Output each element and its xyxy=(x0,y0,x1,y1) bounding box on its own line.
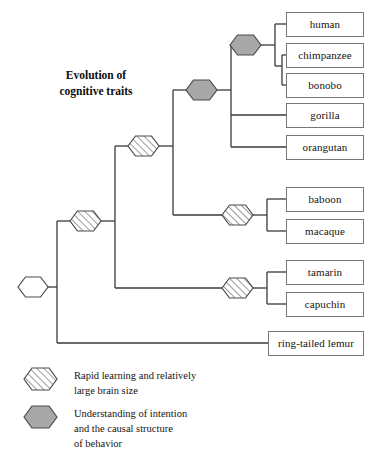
legend-item-rapid-learning: Rapid learning and relatively large brai… xyxy=(74,368,324,398)
taxon-label-human: human xyxy=(286,12,364,37)
node-root xyxy=(18,277,48,297)
taxon-label-bonobo: bonobo xyxy=(286,73,364,98)
node-catarrhine xyxy=(128,136,159,156)
legend-understanding-line-2: and the causal structure xyxy=(74,421,324,436)
node-hominine xyxy=(230,35,261,55)
title-line-2: cognitive traits xyxy=(33,84,159,100)
legend-understanding-line-1: Understanding of intention xyxy=(74,406,324,421)
node-platyrrhine xyxy=(222,278,253,298)
legend-rapid-learning-line-2: large brain size xyxy=(74,383,324,398)
page-title: Evolution of cognitive traits xyxy=(33,68,159,99)
taxon-label-baboon: baboon xyxy=(286,187,364,212)
taxon-label-tamarin: tamarin xyxy=(286,260,364,285)
legend-understanding-line-3: of behavior xyxy=(74,436,324,451)
taxon-label-capuchin: capuchin xyxy=(286,292,364,317)
taxon-label-chimpanzee: chimpanzee xyxy=(286,43,364,68)
taxon-label-orangutan: orangutan xyxy=(286,135,364,160)
node-hominoid xyxy=(186,80,217,100)
node-cercopithecoid xyxy=(222,205,253,225)
node-anthropoid xyxy=(70,211,101,231)
taxon-label-gorilla: gorilla xyxy=(286,103,364,128)
legend-gray-hexagon-icon xyxy=(24,406,57,428)
legend-item-understanding-intention: Understanding of intention and the causa… xyxy=(74,406,324,452)
title-line-1: Evolution of xyxy=(33,68,159,84)
legend-rapid-learning-line-1: Rapid learning and relatively xyxy=(74,368,324,383)
legend-hatched-hexagon-icon xyxy=(24,368,57,390)
taxon-label-macaque: macaque xyxy=(286,219,364,244)
cladogram-figure: Evolution of cognitive traits human chim… xyxy=(0,0,384,454)
taxon-label-ring-tailed-lemur: ring-tailed lemur xyxy=(268,331,364,356)
